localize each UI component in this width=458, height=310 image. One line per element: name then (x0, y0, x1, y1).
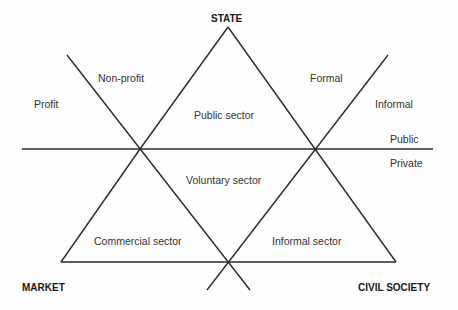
state-triangle-left-side (140, 27, 228, 149)
divide-label-informal: Informal (375, 99, 413, 110)
profit-nonprofit-divide-line (67, 55, 250, 290)
corner-label-civil-society: CIVIL SOCIETY (358, 283, 430, 293)
diagram-lines (0, 0, 458, 310)
corner-label-market: MARKET (22, 283, 65, 293)
divide-label-non-profit: Non-profit (98, 73, 144, 84)
divide-label-formal: Formal (310, 73, 343, 84)
divide-label-profit: Profit (34, 99, 59, 110)
state-triangle-right-side (228, 27, 315, 149)
sector-label-informal: Informal sector (272, 236, 341, 247)
sector-label-voluntary: Voluntary sector (186, 175, 261, 186)
sector-label-public: Public sector (194, 110, 254, 121)
formal-informal-divide-line (207, 55, 388, 290)
sector-label-commercial: Commercial sector (94, 236, 182, 247)
welfare-triangle-diagram: STATE MARKET CIVIL SOCIETY Public sector… (0, 0, 458, 310)
divide-label-public: Public (390, 134, 419, 145)
divide-label-private: Private (390, 158, 423, 169)
corner-label-state: STATE (211, 14, 242, 24)
